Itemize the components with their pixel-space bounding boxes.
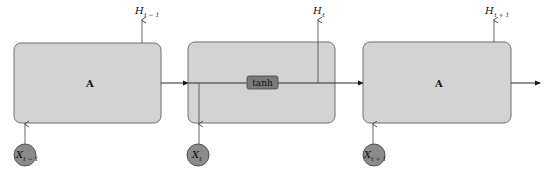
cell-label: A xyxy=(434,78,443,89)
output-label: Ht xyxy=(312,5,325,18)
output-label: Ht − 1 xyxy=(134,5,159,18)
output-label: Ht + 1 xyxy=(484,5,509,18)
cell-t: tanh Ht Xt xyxy=(187,5,335,166)
cell-label: A xyxy=(85,78,94,89)
rnn-diagram: A Ht − 1 Xt − 1 tanh Ht xyxy=(0,0,546,174)
cell-t-plus-1: A Ht + 1 Xt + 1 xyxy=(363,5,511,166)
cell-t-minus-1: A Ht − 1 Xt − 1 xyxy=(14,5,161,166)
tanh-label: tanh xyxy=(252,78,273,88)
